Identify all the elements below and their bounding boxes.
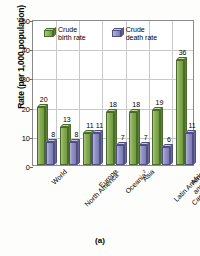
bar-value-label: 7	[144, 134, 148, 141]
legend-swatch-part	[44, 30, 53, 37]
legend-swatch-part	[121, 28, 124, 38]
bar-value-label: 6	[167, 136, 171, 143]
y-axis-tick-label: 40	[22, 46, 30, 55]
bar-face	[162, 147, 170, 165]
bar-side	[193, 130, 196, 165]
bar-crude-birth-rate	[60, 127, 68, 165]
crude-birth-death-rate-figure: Rate (per 1,000 population) 01020304050 …	[0, 0, 200, 256]
bar-value-label: 19	[155, 99, 163, 106]
bar-face	[139, 145, 147, 165]
legend-label: Crudebirth rate	[58, 26, 86, 42]
bar-crude-death-rate	[46, 142, 54, 165]
bar-group: 3611	[172, 21, 195, 165]
bar-face	[106, 112, 114, 165]
bar-value-label: 18	[132, 101, 140, 108]
bar-crude-death-rate	[185, 133, 193, 165]
legend-label-line2: death rate	[126, 34, 158, 42]
bar-crude-birth-rate	[37, 107, 45, 165]
bar-crude-birth-rate	[152, 110, 160, 165]
bar-crude-birth-rate	[106, 112, 114, 165]
x-axis-label: World	[50, 168, 68, 186]
y-axis-tick-label: 50	[22, 17, 30, 26]
bar-face	[83, 133, 91, 165]
bar-value-label: 7	[121, 134, 125, 141]
legend-swatch-part	[112, 30, 121, 37]
bar-value-label: 20	[40, 96, 48, 103]
bar-face	[46, 142, 54, 165]
legend-swatch-purple	[112, 28, 123, 37]
bar-crude-death-rate	[139, 145, 147, 165]
bar-value-label: 8	[74, 131, 78, 138]
legend-label-line2: birth rate	[58, 34, 86, 42]
bar-value-label: 11	[86, 122, 93, 129]
bar-group: 1111	[79, 21, 102, 165]
bar-value-label: 8	[51, 131, 55, 138]
bar-group: 138	[56, 21, 79, 165]
bar-face	[176, 60, 184, 165]
legend-swatch-part	[53, 28, 56, 38]
legend-item: Crudedeath rate	[112, 26, 158, 42]
bar-crude-death-rate	[92, 133, 100, 165]
chart-legend: Crudebirth rateCrudedeath rate	[44, 26, 157, 42]
y-axis-tick-label: 30	[22, 75, 30, 84]
bar-crude-death-rate	[116, 145, 124, 165]
x-axis-tick-labels: WorldNorth America1EuropeOceania2AsiaLat…	[32, 168, 194, 228]
bar-value-label: 11	[188, 122, 195, 129]
bar-face	[37, 107, 45, 165]
y-axis-tick-label: 20	[22, 104, 30, 113]
bar-value-label: 13	[63, 116, 71, 123]
legend-label-line1: Crude	[126, 26, 158, 34]
bar-crude-birth-rate	[129, 112, 137, 165]
bar-crude-birth-rate	[176, 60, 184, 165]
bar-value-label: 18	[109, 101, 117, 108]
bar-face	[60, 127, 68, 165]
bar-face	[185, 133, 193, 165]
bar-group: 187	[126, 21, 149, 165]
y-axis-tick-label: 10	[22, 133, 30, 142]
figure-caption: (a)	[0, 236, 200, 245]
legend-label-line1: Crude	[58, 26, 86, 34]
legend-swatch-green	[44, 28, 55, 37]
bar-crude-death-rate	[69, 142, 77, 165]
bar-value-label: 36	[179, 49, 187, 56]
bar-group: 196	[149, 21, 172, 165]
legend-item: Crudebirth rate	[44, 26, 86, 42]
bar-group: 208	[33, 21, 56, 165]
bar-crude-birth-rate	[83, 133, 91, 165]
bars-container: 20813811111871871963611	[33, 21, 193, 165]
bar-crude-death-rate	[162, 147, 170, 165]
bar-group: 187	[102, 21, 125, 165]
bar-face	[116, 145, 124, 165]
legend-label: Crudedeath rate	[126, 26, 158, 42]
